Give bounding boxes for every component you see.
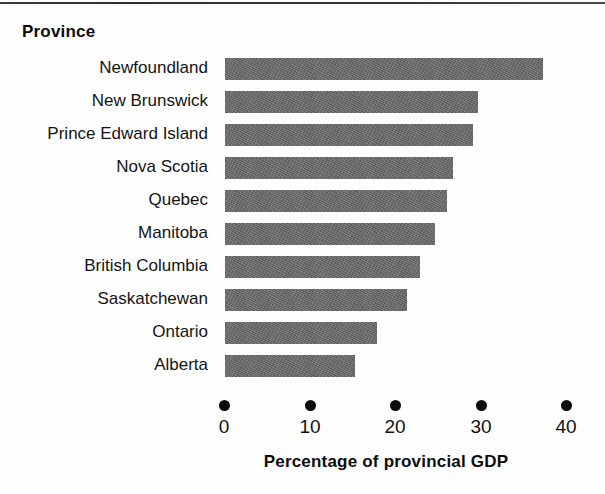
tick-dot-icon	[305, 400, 316, 411]
tick-dot-icon	[561, 400, 572, 411]
bar-row: Quebec	[0, 186, 605, 219]
tick-dot-icon	[219, 400, 230, 411]
bar	[225, 91, 478, 113]
bar	[225, 58, 543, 80]
bar-row: British Columbia	[0, 252, 605, 285]
bar-row: New Brunswick	[0, 87, 605, 120]
bar	[225, 289, 407, 311]
x-axis-tick: 0	[194, 400, 254, 437]
x-tick-label: 0	[194, 417, 254, 437]
value-axis-title: Percentage of provincial GDP	[0, 452, 605, 472]
bar	[225, 322, 377, 344]
category-label: Manitoba	[0, 222, 208, 244]
tick-dot-icon	[476, 400, 487, 411]
x-axis-tick: 40	[536, 400, 596, 437]
x-tick-label: 10	[280, 417, 340, 437]
category-label: Saskatchewan	[0, 288, 208, 310]
category-label: British Columbia	[0, 255, 208, 277]
bar-row: Saskatchewan	[0, 285, 605, 318]
bar-row: Alberta	[0, 351, 605, 384]
category-label: Alberta	[0, 354, 208, 376]
bar-row: Manitoba	[0, 219, 605, 252]
bar-row: Newfoundland	[0, 54, 605, 87]
bar	[225, 157, 453, 179]
category-label: Newfoundland	[0, 57, 208, 79]
bar-row: Ontario	[0, 318, 605, 351]
value-axis-title-text: Percentage of provincial GDP	[264, 452, 509, 472]
category-label: Nova Scotia	[0, 156, 208, 178]
category-label: Quebec	[0, 189, 208, 211]
tick-dot-icon	[390, 400, 401, 411]
bar	[225, 124, 473, 146]
bar-row: Nova Scotia	[0, 153, 605, 186]
x-tick-label: 40	[536, 417, 596, 437]
bar	[225, 355, 355, 377]
x-tick-label: 20	[365, 417, 425, 437]
x-axis-tick: 20	[365, 400, 425, 437]
category-label: Prince Edward Island	[0, 123, 208, 145]
bar	[225, 190, 447, 212]
plot-area: Newfoundland New Brunswick Prince Edward…	[0, 0, 605, 494]
category-label: New Brunswick	[0, 90, 208, 112]
x-axis-tick: 10	[280, 400, 340, 437]
bar-row: Prince Edward Island	[0, 120, 605, 153]
category-label: Ontario	[0, 321, 208, 343]
chart-figure: Province Newfoundland New Brunswick Prin…	[0, 0, 605, 494]
bar	[225, 223, 435, 245]
x-tick-label: 30	[451, 417, 511, 437]
bar	[225, 256, 420, 278]
x-axis-tick: 30	[451, 400, 511, 437]
